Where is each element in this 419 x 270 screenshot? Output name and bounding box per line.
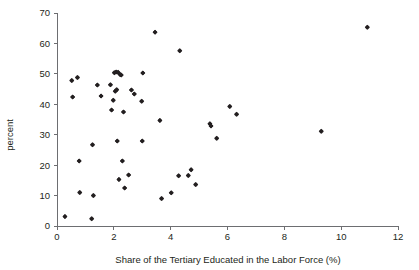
data-point-marker-core (141, 139, 143, 143)
data-point-marker-core (128, 173, 130, 177)
data-point-marker-core (190, 168, 192, 172)
x-tick-label: 6 (225, 231, 230, 242)
data-point-marker-core (131, 88, 133, 92)
data-point-marker-core (142, 71, 144, 75)
x-tick-label: 0 (54, 231, 59, 242)
data-point-marker-core (71, 79, 73, 83)
x-tick-label: 2 (111, 231, 116, 242)
data-point-marker-core (109, 83, 111, 87)
y-tick-label: 20 (39, 160, 50, 171)
y-tick-label: 50 (39, 68, 50, 79)
data-point-marker-core (161, 197, 163, 201)
data-point-marker-core (154, 30, 156, 34)
data-point-marker-core (216, 136, 218, 140)
data-point-marker-core (170, 191, 172, 195)
y-tick-label: 70 (39, 7, 50, 18)
data-point-marker-core (78, 159, 80, 163)
data-point-marker-core (111, 108, 113, 112)
data-point-marker-core (96, 83, 98, 87)
data-point-marker-core (133, 92, 135, 96)
data-point-marker-core (120, 73, 122, 77)
data-point-marker-core (92, 194, 94, 198)
data-point-marker-core (124, 186, 126, 190)
data-point-marker-core (159, 119, 161, 123)
x-axis-title: Share of the Tertiary Educated in the La… (115, 254, 340, 265)
data-point-marker-core (91, 217, 93, 221)
data-point-marker-core (179, 49, 181, 53)
plot-background (0, 0, 419, 270)
data-point-marker-core (366, 25, 368, 29)
data-point-marker-core (320, 129, 322, 133)
data-point-marker-core (116, 139, 118, 143)
x-tick-label: 10 (336, 231, 347, 242)
data-point-marker-core (112, 98, 114, 102)
x-tick-label: 8 (282, 231, 287, 242)
chart-canvas: 010203040506070 024681012 Share of the T… (0, 0, 419, 270)
data-point-marker-core (178, 174, 180, 178)
data-point-marker-core (195, 183, 197, 187)
data-point-marker-core (123, 110, 125, 114)
data-point-marker-core (77, 76, 79, 80)
data-point-marker-core (141, 99, 143, 103)
x-tick-label: 12 (393, 231, 404, 242)
y-tick-label: 0 (45, 220, 50, 231)
data-point-marker-core (92, 143, 94, 147)
data-point-marker-core (116, 88, 118, 92)
y-tick-label: 40 (39, 99, 50, 110)
x-tick-label: 4 (168, 231, 173, 242)
y-tick-label: 60 (39, 38, 50, 49)
scatter-plot-figure: 010203040506070 024681012 Share of the T… (0, 0, 419, 270)
data-point-marker-core (187, 174, 189, 178)
data-point-marker-core (79, 191, 81, 195)
data-point-marker-core (72, 95, 74, 99)
data-point-marker-core (64, 215, 66, 219)
data-point-marker-core (229, 105, 231, 109)
data-point-marker-core (118, 178, 120, 182)
data-point-marker-core (210, 124, 212, 128)
y-tick-label: 30 (39, 129, 50, 140)
data-point-marker-core (236, 112, 238, 116)
data-point-marker-core (121, 159, 123, 163)
y-axis-title: percent (4, 119, 15, 151)
data-point-marker-core (100, 94, 102, 98)
y-tick-label: 10 (39, 190, 50, 201)
